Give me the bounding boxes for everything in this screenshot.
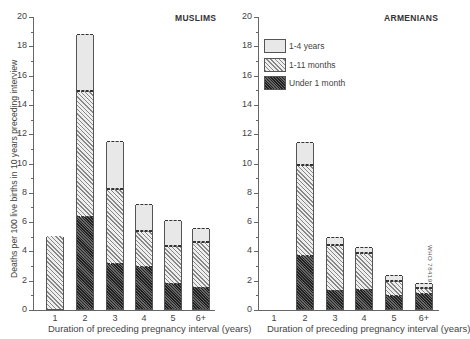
bar-segment-1-4-years bbox=[165, 220, 181, 246]
bar-segment-1-11-months bbox=[297, 165, 313, 256]
y-tick bbox=[256, 120, 258, 121]
y-tick bbox=[29, 281, 33, 282]
y-tick bbox=[254, 193, 258, 194]
y-tick-label: 6 bbox=[236, 216, 252, 226]
bar-4 bbox=[135, 205, 153, 310]
y-tick bbox=[29, 134, 33, 135]
muslims-x-axis-label: Duration of preceding pregnancy interval… bbox=[48, 323, 251, 334]
y-tick bbox=[29, 76, 33, 77]
bar-4 bbox=[355, 248, 373, 310]
bar-6+ bbox=[415, 284, 433, 310]
bar-segment-1-4-years bbox=[297, 142, 313, 165]
muslims-panel: 02468101214161820123456+ bbox=[0, 0, 224, 339]
x-axis bbox=[33, 310, 215, 311]
x-axis bbox=[258, 310, 439, 311]
bar-3 bbox=[106, 142, 124, 310]
y-tick bbox=[29, 105, 33, 106]
bar-5 bbox=[164, 221, 182, 310]
y-tick-label: 10 bbox=[236, 158, 252, 168]
bar-segment-1-4-years bbox=[77, 34, 93, 91]
y-tick bbox=[31, 266, 33, 267]
y-tick-label: 8 bbox=[236, 187, 252, 197]
bar-5 bbox=[385, 276, 403, 310]
x-tick-label: 1 bbox=[264, 313, 284, 323]
bar-segment-under-1-month bbox=[356, 290, 372, 309]
muslims-title: MUSLIMS bbox=[175, 13, 216, 23]
y-tick bbox=[29, 222, 33, 223]
y-tick-label: 18 bbox=[11, 40, 27, 50]
y-tick-label: 14 bbox=[236, 99, 252, 109]
bar-segment-1-4-years bbox=[386, 275, 402, 281]
bar-segment-1-11-months bbox=[136, 231, 152, 266]
y-tick bbox=[31, 178, 33, 179]
y-tick-label: 20 bbox=[11, 11, 27, 21]
legend-swatch-under-1-month bbox=[264, 76, 286, 90]
legend-item-1-11-months: 1-11 months bbox=[264, 58, 336, 72]
bar-1 bbox=[46, 237, 64, 310]
bar-segment-1-4-years bbox=[107, 141, 123, 189]
y-tick bbox=[254, 105, 258, 106]
bar-segment-1-4-years bbox=[193, 228, 209, 241]
y-tick bbox=[256, 266, 258, 267]
y-tick bbox=[29, 17, 33, 18]
y-tick bbox=[29, 46, 33, 47]
y-tick bbox=[256, 237, 258, 238]
y-tick-label: 20 bbox=[236, 11, 252, 21]
bar-segment-1-4-years bbox=[416, 283, 432, 289]
legend-swatch-1-4-years bbox=[264, 39, 286, 53]
y-tick bbox=[254, 76, 258, 77]
bar-segment-under-1-month bbox=[416, 294, 432, 309]
legend-swatch-1-11-months bbox=[264, 58, 286, 72]
y-tick bbox=[256, 61, 258, 62]
x-tick-label: 6+ bbox=[414, 313, 434, 323]
y-tick-label: 2 bbox=[236, 275, 252, 285]
y-tick bbox=[31, 207, 33, 208]
y-tick bbox=[256, 178, 258, 179]
bar-2 bbox=[296, 143, 314, 310]
bar-segment-1-11-months bbox=[327, 245, 343, 292]
y-tick bbox=[256, 32, 258, 33]
bar-3 bbox=[326, 238, 344, 310]
x-tick-label: 2 bbox=[295, 313, 315, 323]
y-tick bbox=[254, 46, 258, 47]
bar-segment-1-4-years bbox=[327, 237, 343, 244]
y-tick bbox=[31, 149, 33, 150]
armenians-x-axis-label: Duration of preceding pregnancy interval… bbox=[267, 323, 470, 334]
y-tick bbox=[256, 149, 258, 150]
y-tick bbox=[254, 134, 258, 135]
y-tick bbox=[31, 120, 33, 121]
bar-segment-under-1-month bbox=[107, 264, 123, 309]
bar-segment-1-11-months bbox=[356, 253, 372, 290]
x-tick-label: 3 bbox=[325, 313, 345, 323]
x-tick-label: 4 bbox=[354, 313, 374, 323]
y-tick bbox=[256, 295, 258, 296]
bar-segment-1-11-months bbox=[386, 281, 402, 296]
bar-segment-1-11-months bbox=[77, 91, 93, 217]
y-tick-label: 12 bbox=[236, 128, 252, 138]
y-axis bbox=[33, 17, 34, 310]
y-tick bbox=[31, 237, 33, 238]
x-tick-label: 5 bbox=[163, 313, 183, 323]
y-tick-label: 0 bbox=[11, 304, 27, 314]
y-tick-label: 16 bbox=[236, 70, 252, 80]
y-tick bbox=[31, 295, 33, 296]
y-tick bbox=[254, 17, 258, 18]
armenians-title: ARMENIANS bbox=[384, 13, 438, 23]
y-tick bbox=[29, 310, 33, 311]
who-code-annotation: WHO 78419 bbox=[427, 245, 433, 283]
y-tick bbox=[31, 61, 33, 62]
legend-item-under-1-month: Under 1 month bbox=[264, 76, 345, 90]
x-tick-label: 2 bbox=[75, 313, 95, 323]
bar-segment-1-11-months bbox=[47, 236, 63, 309]
y-tick bbox=[29, 251, 33, 252]
bar-segment-under-1-month bbox=[193, 288, 209, 309]
y-tick bbox=[254, 164, 258, 165]
y-tick bbox=[256, 90, 258, 91]
bar-segment-under-1-month bbox=[77, 217, 93, 309]
y-tick bbox=[31, 32, 33, 33]
legend-item-1-4-years: 1-4 years bbox=[264, 39, 324, 53]
bar-segment-1-4-years bbox=[356, 247, 372, 253]
x-tick-label: 4 bbox=[134, 313, 154, 323]
bar-segment-1-4-years bbox=[136, 204, 152, 232]
y-axis bbox=[258, 17, 259, 310]
